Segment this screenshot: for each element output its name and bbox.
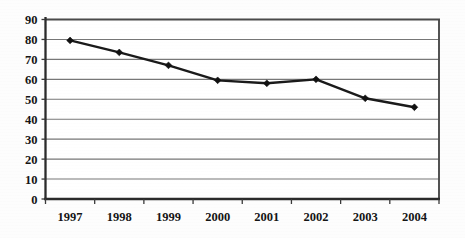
y-tick-label: 90 [25,13,38,27]
x-axis-ticks: 19971998199920002001200220032004 [46,199,440,224]
y-tick-label: 40 [25,113,38,127]
chart-canvas: 0102030405060708090 19971998199920002001… [0,0,465,238]
x-tick-label: 2000 [205,210,230,224]
y-tick-label: 10 [25,173,38,187]
x-tick-label: 1999 [156,210,181,224]
x-tick-label: 1997 [58,210,83,224]
y-tick-label: 20 [25,153,38,167]
plot-background [45,19,440,199]
y-axis-ticks: 0102030405060708090 [25,13,46,207]
y-tick-label: 0 [31,193,37,207]
y-tick-label: 80 [25,33,38,47]
y-tick-label: 50 [25,93,38,107]
y-tick-label: 60 [25,73,38,87]
x-tick-label: 1998 [107,210,132,224]
x-tick-label: 2003 [353,210,378,224]
y-tick-label: 30 [25,133,38,147]
y-tick-label: 70 [25,53,38,67]
x-tick-label: 2001 [254,210,279,224]
x-tick-label: 2004 [402,210,428,224]
line-chart: 0102030405060708090 19971998199920002001… [0,0,465,238]
x-tick-label: 2002 [304,210,329,224]
